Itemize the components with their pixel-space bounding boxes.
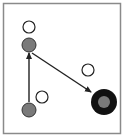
diagram-canvas — [0, 0, 129, 139]
gray-dot-icon — [22, 38, 36, 52]
node-empty-bottom — [36, 91, 48, 103]
node-empty-right — [82, 64, 94, 76]
target-inner-dot-icon — [98, 96, 110, 108]
node-empty-top — [23, 21, 35, 33]
empty-circle-icon — [36, 91, 48, 103]
node-target — [91, 89, 117, 115]
nodes-layer — [22, 21, 117, 117]
node-gray-mid — [22, 38, 36, 52]
node-gray-bottom — [22, 103, 36, 117]
gray-dot-icon — [22, 103, 36, 117]
empty-circle-icon — [82, 64, 94, 76]
empty-circle-icon — [23, 21, 35, 33]
